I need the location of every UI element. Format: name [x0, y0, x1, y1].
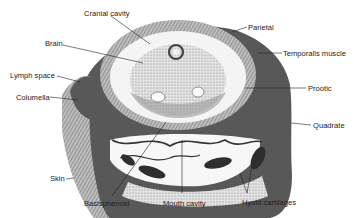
- label-mouth-cavity: Mouth cavity: [163, 200, 206, 208]
- label-basisphenoid: Basisphenoid: [84, 200, 130, 208]
- label-skin: Skin: [50, 175, 65, 183]
- cross-section-diagram: [0, 0, 354, 218]
- vesicle-right: [192, 87, 204, 97]
- label-temporalis-muscle: Temporalis muscle: [283, 50, 346, 58]
- label-cranial-cavity: Cranial cavity: [84, 10, 130, 18]
- label-quadrate: Quadrate: [313, 122, 345, 130]
- label-lymph-space: Lymph space: [10, 72, 55, 80]
- label-columella: Columella: [16, 94, 50, 102]
- label-prootic: Prootic: [308, 85, 332, 93]
- vesicle-left: [151, 92, 165, 102]
- label-hyoid-cartilages: Hyoid cartilages: [242, 199, 296, 207]
- label-brain: Brain: [45, 40, 63, 48]
- label-parietal: Parietal: [248, 24, 274, 32]
